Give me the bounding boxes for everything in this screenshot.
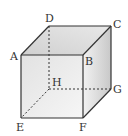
vertex-label-g: G bbox=[113, 83, 122, 96]
vertex-label-e: E bbox=[16, 121, 24, 134]
vertex-label-b: B bbox=[85, 55, 93, 68]
vertex-label-a: A bbox=[9, 50, 19, 63]
cube-diagram: A B C D E F G H bbox=[0, 0, 128, 136]
vertex-label-h: H bbox=[52, 76, 62, 89]
vertex-label-f: F bbox=[79, 121, 87, 134]
vertex-label-c: C bbox=[113, 18, 121, 31]
vertex-label-d: D bbox=[45, 12, 54, 25]
